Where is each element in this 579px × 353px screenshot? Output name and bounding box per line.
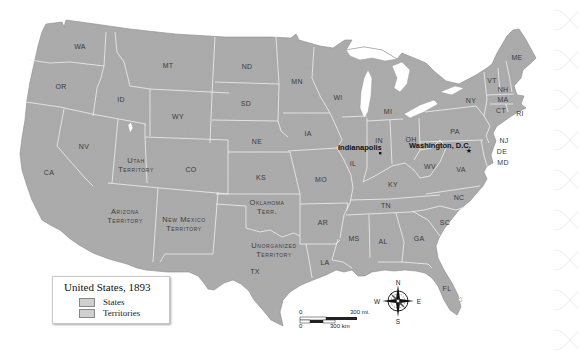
state-label-tn: TN (381, 202, 391, 209)
legend-swatch-territories (79, 309, 95, 318)
territory-label: ArizonaTerritory (107, 207, 143, 225)
state-label-wi: WI (333, 94, 342, 101)
indianapolis-marker (379, 152, 381, 154)
state-label-ar: AR (318, 219, 328, 226)
state-label-nv: NV (79, 143, 89, 150)
state-label-nj: NJ (499, 137, 508, 144)
legend-item-territories: Territories (79, 308, 140, 318)
state-label-ma: MA (497, 96, 508, 103)
state-label-me: ME (511, 54, 522, 61)
legend-swatch-states (79, 298, 95, 307)
territory-name-line2: Terr. (249, 207, 284, 216)
scale-km-label: 300 km (330, 323, 350, 329)
state-label-nh: NH (498, 86, 509, 93)
state-label-la: LA (320, 259, 329, 266)
state-label-il: IL (350, 160, 356, 167)
state-label-ky: KY (388, 181, 398, 188)
territory-label: UnorganizedTerritory (251, 241, 296, 259)
state-label-ny: NY (466, 97, 476, 104)
state-label-va: VA (456, 166, 465, 173)
state-label-mt: MT (163, 62, 174, 69)
scale-miles-label: 300 mi. (350, 309, 370, 315)
state-label-wv: WV (424, 163, 436, 170)
territory-label: New MexicoTerritory (162, 215, 205, 233)
state-label-de: DE (497, 148, 507, 155)
territory-name-line2: Territory (162, 224, 205, 233)
legend-label-territories: Territories (103, 308, 140, 318)
territory-label: UtahTerritory (118, 156, 154, 174)
state-label-ne: NE (252, 138, 262, 145)
legend-item-states: States (79, 297, 125, 307)
territory-name-line2: Territory (107, 216, 143, 225)
compass-rose (382, 285, 414, 317)
territory-name-line1: New Mexico (162, 215, 205, 224)
state-label-or: OR (55, 83, 66, 90)
state-label-mn: MN (291, 78, 303, 85)
territory-name-line2: Territory (251, 250, 296, 259)
state-label-id: ID (117, 96, 125, 103)
state-label-co: CO (185, 166, 196, 173)
state-label-vt: VT (487, 77, 497, 84)
city-label-washington-dc: Washington, D.C. (409, 141, 471, 150)
state-label-tx: TX (250, 268, 260, 275)
territory-name-line2: Territory (118, 165, 154, 174)
state-label-sc: SC (440, 219, 450, 226)
state-label-mo: MO (315, 176, 327, 183)
scale-miles-zero: 0 (299, 309, 302, 315)
legend-title: United States, 1893 (64, 281, 150, 293)
state-label-ks: KS (256, 174, 266, 181)
state-label-ct: CT (496, 107, 506, 114)
state-label-sd: SD (241, 100, 251, 107)
state-label-md: MD (497, 159, 509, 166)
state-label-ia: IA (304, 130, 311, 137)
city-label-indianapolis: Indianapolis (338, 143, 382, 152)
scale-km-zero: 0 (299, 323, 302, 329)
map-legend: United States, 1893 States Territories (52, 276, 170, 324)
state-label-ms: MS (348, 235, 359, 242)
compass-west: W (374, 298, 380, 305)
state-label-al: AL (378, 238, 387, 245)
territory-name-line1: Unorganized (251, 241, 296, 250)
compass-north: N (396, 279, 401, 286)
state-label-wa: WA (74, 43, 86, 50)
state-label-wy: WY (172, 113, 184, 120)
state-label-mi: MI (384, 108, 392, 115)
compass-south: S (396, 318, 400, 325)
compass-east: E (417, 298, 421, 305)
decorative-pattern (549, 0, 579, 353)
territory-name-line1: Utah (118, 156, 154, 165)
state-label-ri: RI (516, 110, 524, 117)
state-label-nc: NC (454, 194, 465, 201)
territory-name-line1: Oklahoma (249, 198, 284, 207)
territory-label: OklahomaTerr. (249, 198, 284, 216)
state-label-nd: ND (242, 63, 253, 70)
state-label-fl: FL (443, 285, 452, 292)
state-label-ga: GA (414, 235, 425, 242)
legend-label-states: States (103, 297, 125, 307)
territory-name-line1: Arizona (107, 207, 143, 216)
state-label-pa: PA (450, 128, 459, 135)
state-label-ca: CA (44, 169, 54, 176)
